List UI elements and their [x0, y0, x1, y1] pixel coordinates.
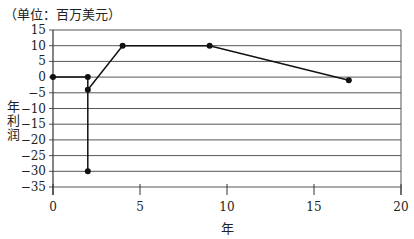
y-axis-label: 年利润	[6, 100, 20, 142]
unit-label: （单位：百万美元）	[4, 4, 121, 23]
plot-area: 151050−5−10−15−20−25−30−3505101520	[0, 0, 414, 239]
x-tick-label: 5	[136, 200, 144, 214]
y-tick-label: 0	[38, 70, 46, 84]
data-point-marker	[85, 168, 91, 174]
data-point-marker	[50, 74, 56, 80]
data-point-marker	[85, 74, 91, 80]
data-point-marker	[346, 77, 352, 83]
y-tick-label: −10	[21, 102, 46, 116]
data-point-marker	[85, 87, 91, 93]
x-axis-label: 年	[221, 218, 234, 237]
x-tick-label: 10	[219, 200, 234, 214]
x-tick-label: 15	[306, 200, 321, 214]
profit-chart: （单位：百万美元） 年利润 年 151050−5−10−15−20−25−30−…	[0, 0, 414, 239]
y-tick-label: 10	[31, 39, 46, 53]
y-tick-label: 15	[31, 23, 46, 37]
y-tick-label: −5	[28, 86, 46, 100]
y-tick-label: −35	[21, 180, 46, 194]
y-tick-label: −30	[21, 164, 46, 178]
y-tick-label: 5	[38, 54, 46, 68]
y-tick-label: −25	[21, 149, 46, 163]
y-tick-label: −20	[21, 133, 46, 147]
x-tick-label: 0	[49, 200, 57, 214]
x-tick-label: 20	[393, 200, 408, 214]
data-point-marker	[120, 43, 126, 49]
data-point-marker	[207, 43, 213, 49]
y-tick-label: −15	[21, 117, 46, 131]
